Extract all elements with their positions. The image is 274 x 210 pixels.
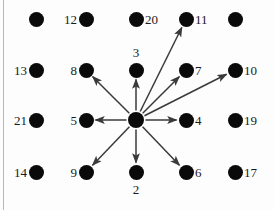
node-label: 14 [14, 166, 27, 179]
node-label: 5 [71, 114, 78, 127]
graph-node[interactable] [79, 63, 94, 78]
hub-node[interactable] [128, 112, 144, 128]
node-label: 17 [244, 166, 257, 179]
node-label: 19 [244, 114, 257, 127]
graph-node[interactable] [29, 165, 44, 180]
graph-node[interactable] [228, 63, 243, 78]
node-label: 7 [195, 64, 202, 77]
node-label: 12 [64, 13, 77, 26]
graph-node[interactable] [29, 12, 44, 27]
node-label: 20 [145, 13, 158, 26]
graph-node[interactable] [179, 63, 194, 78]
node-label: 2 [133, 183, 140, 196]
node-label: 9 [71, 166, 78, 179]
node-label: 6 [195, 166, 202, 179]
graph-node[interactable] [179, 12, 194, 27]
graph-node[interactable] [79, 165, 94, 180]
node-label: 8 [71, 64, 78, 77]
node-label: 3 [133, 46, 140, 59]
graph-node[interactable] [179, 165, 194, 180]
graph-node[interactable] [228, 165, 243, 180]
graph-node[interactable] [79, 113, 94, 128]
graph-edge-arrow [144, 74, 226, 115]
node-label: 11 [195, 13, 208, 26]
graph-edge-arrow [93, 77, 130, 114]
graph-node[interactable] [129, 165, 144, 180]
node-label: 21 [14, 114, 27, 127]
graph-edge-arrow [143, 127, 180, 165]
graph-node[interactable] [79, 12, 94, 27]
graph-node[interactable] [129, 12, 144, 27]
graph-node[interactable] [29, 63, 44, 78]
graph-node[interactable] [29, 113, 44, 128]
graph-node[interactable] [228, 12, 243, 27]
node-label: 10 [244, 64, 257, 77]
graph-edge-arrow [93, 127, 130, 165]
node-label: 13 [14, 64, 27, 77]
graph-node[interactable] [129, 63, 144, 78]
graph-edge-arrow [140, 28, 182, 112]
node-label: 4 [195, 114, 202, 127]
graph-node[interactable] [228, 113, 243, 128]
graph-figure: 12201113837102154191492617 [0, 0, 274, 210]
graph-node[interactable] [179, 113, 194, 128]
